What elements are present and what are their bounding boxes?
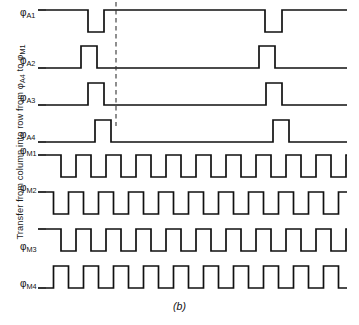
signal-subscript: A2: [26, 59, 35, 68]
waveform-m3: [46, 229, 347, 251]
signal-subscript: M4: [26, 282, 36, 291]
signal-label-a3: φA3: [20, 92, 35, 105]
waveform-m1: [46, 155, 347, 177]
waveform-a2: [46, 46, 347, 68]
signal-subscript: A3: [26, 96, 35, 105]
figure-caption: (b): [0, 300, 359, 312]
waveform-m2: [46, 192, 347, 214]
signal-subscript: A1: [26, 11, 35, 20]
waveform-a3: [46, 83, 347, 105]
signal-subscript: M3: [26, 245, 36, 254]
signal-subscript: M2: [26, 186, 36, 195]
signal-label-a4: φA4: [20, 129, 35, 142]
signal-label-m2: φM2: [20, 182, 37, 195]
waveform-a1: [46, 10, 347, 32]
signal-label-m3: φM3: [20, 241, 37, 254]
waveform-a4: [46, 120, 347, 142]
signal-label-a1: φA1: [20, 7, 35, 20]
timing-diagram-figure: Transfer from column into row from φA4 t…: [0, 0, 359, 325]
signal-subscript: M1: [26, 149, 36, 158]
signal-subscript: A4: [26, 133, 35, 142]
waveform-m4: [46, 266, 347, 288]
waveform-canvas: [0, 0, 359, 325]
signal-label-m4: φM4: [20, 278, 37, 291]
signal-label-m1: φM1: [20, 145, 37, 158]
signal-label-a2: φA2: [20, 55, 35, 68]
